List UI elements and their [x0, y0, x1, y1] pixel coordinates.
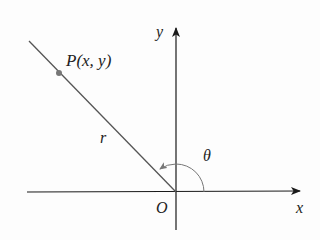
angle-arc — [160, 164, 204, 192]
angle-theta-label: θ — [203, 148, 211, 164]
y-axis-label: y — [156, 24, 163, 40]
origin-label: O — [156, 200, 168, 216]
radius-label: r — [100, 130, 106, 146]
x-axis-label: x — [296, 200, 303, 216]
point-p-marker — [56, 70, 62, 76]
x-axis — [27, 191, 300, 192]
polar-coordinates-diagram: P(x, y) r θ O x y — [0, 0, 320, 240]
point-p-label: P(x, y) — [66, 52, 111, 69]
